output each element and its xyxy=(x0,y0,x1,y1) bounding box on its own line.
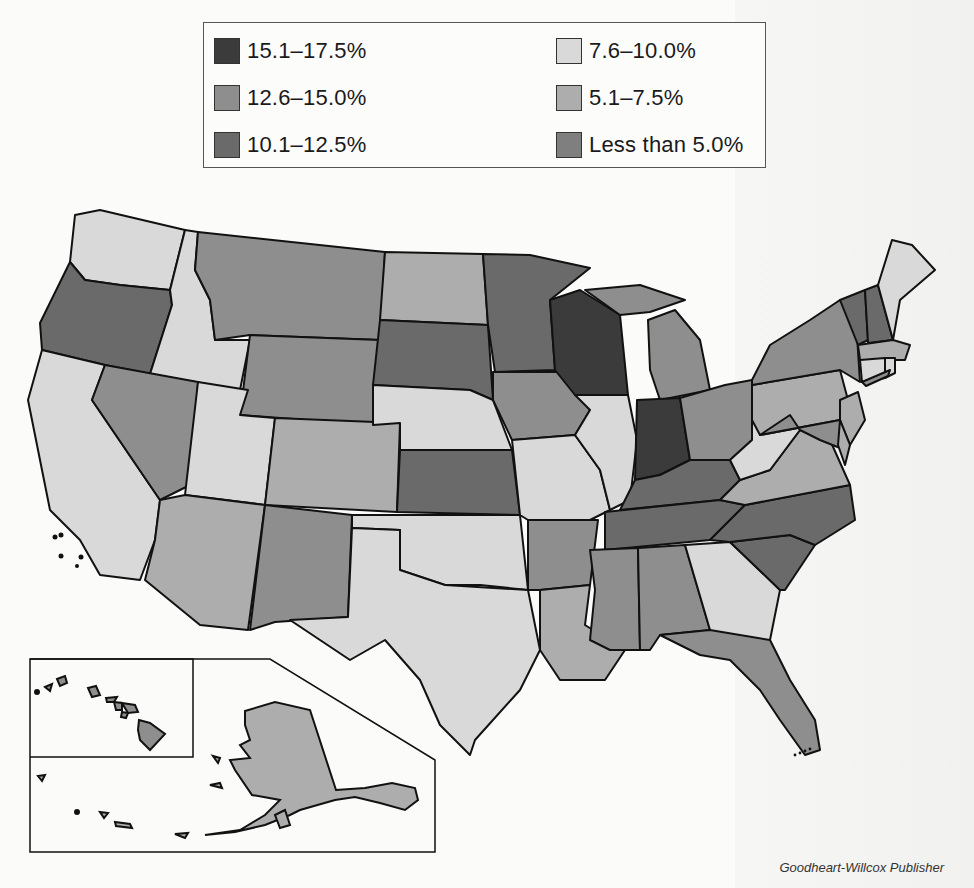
state-wy[interactable] xyxy=(240,335,380,425)
state-wa[interactable] xyxy=(70,210,185,290)
state-ny[interactable] xyxy=(752,300,860,385)
state-ma[interactable] xyxy=(858,340,910,360)
state-ms[interactable] xyxy=(590,548,640,650)
publisher-credit: Goodheart-Willcox Publisher xyxy=(779,860,944,875)
state-fl[interactable] xyxy=(660,630,820,755)
state-nm[interactable] xyxy=(250,505,352,630)
state-co[interactable] xyxy=(265,418,400,512)
state-nd[interactable] xyxy=(380,252,488,325)
state-hi[interactable] xyxy=(35,676,165,750)
state-ks[interactable] xyxy=(397,450,520,515)
state-az[interactable] xyxy=(145,495,265,630)
state-mt[interactable] xyxy=(195,232,385,340)
us-map xyxy=(0,0,974,888)
state-ak[interactable] xyxy=(38,702,418,838)
state-ar[interactable] xyxy=(528,520,598,590)
hawaii-inset-frame xyxy=(30,659,193,757)
